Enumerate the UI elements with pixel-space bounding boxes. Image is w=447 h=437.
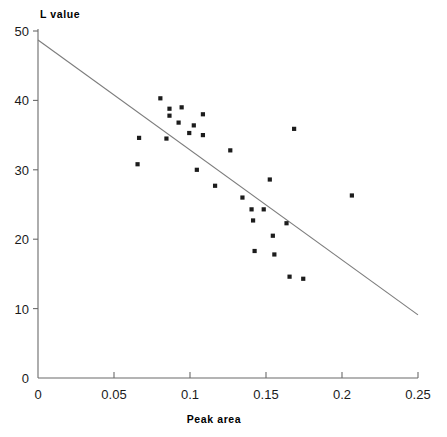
y-tick-label: 0 bbox=[22, 371, 29, 386]
y-tick-label: 50 bbox=[15, 24, 29, 39]
data-point bbox=[301, 277, 305, 281]
data-point bbox=[292, 127, 296, 131]
data-point bbox=[350, 193, 354, 197]
data-point bbox=[158, 96, 162, 100]
x-tick-label: 0.2 bbox=[333, 387, 351, 402]
data-point bbox=[164, 136, 168, 140]
data-point bbox=[187, 131, 191, 135]
data-point bbox=[135, 162, 139, 166]
data-point bbox=[268, 177, 272, 181]
x-tick-label: 0.1 bbox=[181, 387, 199, 402]
data-point bbox=[177, 121, 181, 125]
data-point bbox=[195, 168, 199, 172]
data-point bbox=[213, 184, 217, 188]
data-point bbox=[249, 207, 253, 211]
data-point bbox=[262, 207, 266, 211]
data-point bbox=[192, 123, 196, 127]
data-point bbox=[228, 148, 232, 152]
scatter-plot-figure: 0102030405000.050.10.150.20.25L valuePea… bbox=[0, 0, 447, 437]
chart-canvas: 0102030405000.050.10.150.20.25L valuePea… bbox=[0, 0, 447, 437]
x-tick-label: 0.05 bbox=[101, 387, 126, 402]
data-point bbox=[167, 114, 171, 118]
data-point bbox=[271, 234, 275, 238]
x-axis-title: Peak area bbox=[187, 413, 241, 425]
data-point bbox=[287, 275, 291, 279]
data-point bbox=[253, 249, 257, 253]
data-point bbox=[240, 195, 244, 199]
y-tick-label: 40 bbox=[15, 93, 29, 108]
y-axis-title: L value bbox=[40, 8, 80, 20]
data-point bbox=[251, 218, 255, 222]
data-point bbox=[272, 252, 276, 256]
y-tick-label: 10 bbox=[15, 302, 29, 317]
data-point bbox=[284, 221, 288, 225]
data-point bbox=[180, 105, 184, 109]
x-tick-label: 0.15 bbox=[253, 387, 278, 402]
x-tick-label: 0 bbox=[34, 387, 41, 402]
x-tick-label: 0.25 bbox=[405, 387, 430, 402]
y-tick-label: 30 bbox=[15, 163, 29, 178]
regression-line bbox=[38, 40, 418, 315]
data-point bbox=[201, 112, 205, 116]
data-point bbox=[167, 107, 171, 111]
data-point bbox=[137, 136, 141, 140]
data-point bbox=[201, 133, 205, 137]
y-tick-label: 20 bbox=[15, 232, 29, 247]
